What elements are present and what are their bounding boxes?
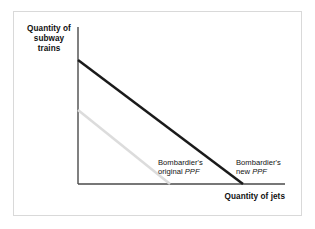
y-axis-title: Quantity of subway trains <box>22 24 76 54</box>
annotation-original-ppf-line2-prefix: original <box>158 167 185 176</box>
annotation-original-ppf-acronym: PPF <box>185 167 200 176</box>
annotation-new-ppf-line1: Bombardier's <box>236 158 281 167</box>
annotation-original-ppf-line1: Bombardier's <box>158 158 203 167</box>
ppf-figure: Quantity of subway trains Quantity of je… <box>0 0 315 229</box>
x-axis-title: Quantity of jets <box>175 192 285 202</box>
annotation-new-ppf: Bombardier's new PPF <box>236 158 294 177</box>
annotation-original-ppf: Bombardier's original PPF <box>158 158 220 177</box>
annotation-new-ppf-line2-prefix: new <box>236 167 252 176</box>
annotation-new-ppf-acronym: PPF <box>252 167 267 176</box>
ppf-line-original <box>78 110 170 184</box>
